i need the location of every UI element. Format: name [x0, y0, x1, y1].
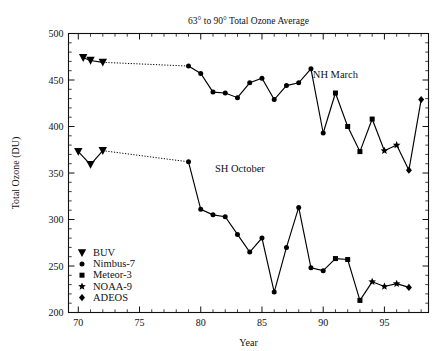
- data-point-circle: [284, 245, 289, 250]
- data-point-circle: [296, 205, 301, 210]
- legend: BUVNimbus-7Meteor-3NOAA-9ADEOS: [78, 247, 135, 303]
- data-point-circle: [198, 207, 203, 212]
- legend-label-meteor-3: Meteor-3: [93, 269, 132, 280]
- data-point-circle: [308, 265, 313, 270]
- series-line-gap: [103, 62, 189, 66]
- series-connector: [323, 93, 335, 133]
- legend-label-buv: BUV: [93, 247, 116, 258]
- y-axis-label: Total Ozone (DU): [10, 137, 22, 210]
- data-point-circle: [296, 80, 301, 85]
- chart-canvas: 70758085909520025030035040045050063° to …: [0, 0, 447, 351]
- data-point-diamond: [406, 284, 412, 291]
- x-tick-label: 80: [196, 317, 206, 328]
- data-point-square: [80, 273, 85, 278]
- data-point-star: [393, 141, 401, 148]
- y-tick-label: 350: [49, 168, 64, 179]
- y-tick-label: 200: [49, 307, 64, 318]
- data-point-diamond: [418, 96, 424, 103]
- series-connector: [372, 119, 384, 151]
- data-point-square: [357, 149, 362, 154]
- series-nh-march: [79, 54, 424, 174]
- series-line-meteor-3: [335, 259, 359, 301]
- y-tick-label: 400: [49, 121, 64, 132]
- data-point-circle: [198, 71, 203, 76]
- x-axis-label: Year: [239, 337, 258, 348]
- chart-title: 63° to 90° Total Ozone Average: [188, 16, 309, 26]
- data-point-circle: [235, 232, 240, 237]
- data-point-square: [370, 117, 375, 122]
- data-point-circle: [223, 214, 228, 219]
- data-point-circle: [259, 236, 264, 241]
- annotation-label: SH October: [215, 163, 265, 174]
- data-point-circle: [210, 212, 215, 217]
- y-tick-label: 450: [49, 75, 64, 86]
- data-point-circle: [272, 97, 277, 102]
- y-tick-label: 500: [49, 28, 64, 39]
- data-point-square: [333, 91, 338, 96]
- data-point-circle: [186, 159, 191, 164]
- legend-label-adeos: ADEOS: [93, 292, 128, 303]
- x-tick-label: 75: [135, 317, 145, 328]
- data-point-circle: [284, 83, 289, 88]
- legend-label-noaa-9: NOAA-9: [93, 281, 132, 292]
- legend-label-nimbus-7: Nimbus-7: [93, 258, 135, 269]
- x-tick-label: 85: [257, 317, 267, 328]
- data-point-square: [333, 256, 338, 261]
- ozone-chart-figure: 70758085909520025030035040045050063° to …: [0, 0, 447, 351]
- data-point-circle: [247, 250, 252, 255]
- data-point-circle: [186, 64, 191, 69]
- data-point-circle: [259, 76, 264, 81]
- series-line-gap: [103, 151, 189, 162]
- y-tick-label: 300: [49, 214, 64, 225]
- data-point-circle: [210, 90, 215, 95]
- data-point-star: [381, 282, 389, 289]
- series-connector: [397, 145, 409, 170]
- data-point-diamond: [79, 294, 85, 301]
- annotation-label: NH March: [313, 69, 359, 80]
- data-point-diamond: [406, 167, 412, 174]
- data-point-circle: [80, 262, 85, 267]
- data-point-circle: [223, 91, 228, 96]
- data-point-triangle: [86, 161, 94, 169]
- series-line-nimbus-7: [189, 66, 324, 133]
- data-point-star: [368, 278, 376, 285]
- data-point-circle: [272, 290, 277, 295]
- data-point-circle: [235, 95, 240, 100]
- series-line-adeos: [409, 100, 421, 171]
- data-point-triangle: [79, 54, 87, 62]
- x-tick-label: 90: [318, 317, 328, 328]
- x-tick-label: 70: [73, 317, 83, 328]
- y-tick-label: 250: [49, 261, 64, 272]
- data-point-circle: [247, 80, 252, 85]
- data-point-circle: [321, 268, 326, 273]
- data-point-circle: [321, 131, 326, 136]
- data-point-star: [381, 147, 389, 154]
- series-line-nimbus-7: [189, 162, 324, 292]
- x-tick-label: 95: [379, 317, 389, 328]
- data-point-triangle: [78, 249, 86, 257]
- series-line-meteor-3: [335, 93, 372, 152]
- data-point-star: [393, 280, 401, 287]
- data-point-square: [345, 124, 350, 129]
- data-point-square: [357, 298, 362, 303]
- data-point-square: [345, 257, 350, 262]
- data-point-star: [78, 282, 86, 289]
